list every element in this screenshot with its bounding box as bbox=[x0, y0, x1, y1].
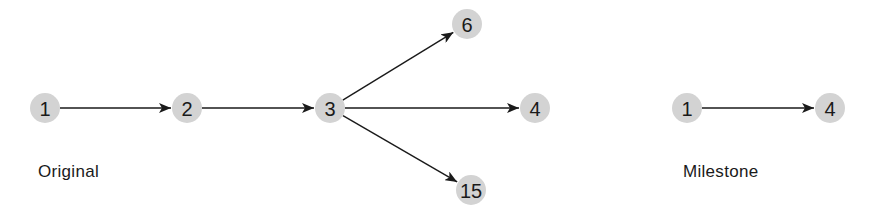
node-label: 2 bbox=[181, 98, 192, 120]
node-2: 2 bbox=[172, 93, 202, 123]
network-diagram: 1236415 14 bbox=[0, 0, 870, 220]
node-3: 3 bbox=[315, 93, 345, 123]
node-label: 6 bbox=[461, 14, 472, 36]
node-4: 4 bbox=[815, 93, 845, 123]
node-label: 1 bbox=[681, 98, 692, 120]
node-1: 1 bbox=[672, 93, 702, 123]
node-1: 1 bbox=[30, 93, 60, 123]
node-label: 15 bbox=[460, 180, 482, 202]
node-label: 3 bbox=[324, 98, 335, 120]
node-15: 15 bbox=[456, 175, 486, 205]
original-network: 1236415 bbox=[30, 9, 550, 205]
edge-3-to-6 bbox=[343, 32, 454, 100]
node-label: 4 bbox=[824, 98, 835, 120]
original-caption: Original bbox=[38, 162, 99, 182]
milestone-network: 14 bbox=[672, 93, 845, 123]
node-label: 1 bbox=[39, 98, 50, 120]
edge-3-to-15 bbox=[343, 116, 457, 182]
node-6: 6 bbox=[452, 9, 482, 39]
node-4: 4 bbox=[520, 93, 550, 123]
node-label: 4 bbox=[529, 98, 540, 120]
milestone-caption: Milestone bbox=[683, 162, 758, 182]
